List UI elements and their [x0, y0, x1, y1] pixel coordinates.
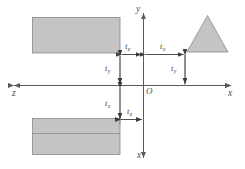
axis-label-y-top: y — [136, 5, 140, 15]
dim-label-lower-left-vertical: tx — [105, 99, 110, 108]
dim-sub: x — [163, 46, 166, 52]
shape-bottom-left-rectangle — [33, 119, 121, 155]
dim-sub: z — [130, 111, 132, 117]
dim-label-upper-left-vertical: ty — [105, 64, 110, 73]
dim-sub: y — [174, 68, 177, 74]
dim-label-lower-right-horizontal: tz — [127, 107, 132, 116]
axis-label-z-left: z — [12, 89, 16, 99]
dim-label-upper-right-vertical: ty — [171, 64, 176, 73]
axis-label-x-right: x — [228, 89, 232, 99]
dim-sub: z — [128, 46, 130, 52]
dim-sub: x — [108, 103, 111, 109]
dim-label-upper-right-horizontal: tx — [160, 42, 165, 51]
dim-label-upper-left-horizontal: tz — [125, 42, 130, 51]
coordinate-diagram: y x x z O tz tx ty ty tx tz — [0, 0, 245, 169]
shape-top-left-rectangle — [33, 18, 121, 54]
diagram-canvas — [0, 0, 245, 169]
origin-label: O — [146, 87, 153, 96]
dim-sub: y — [108, 68, 111, 74]
axis-label-x-bottom: x — [137, 151, 141, 161]
shape-right-triangle — [187, 16, 228, 53]
